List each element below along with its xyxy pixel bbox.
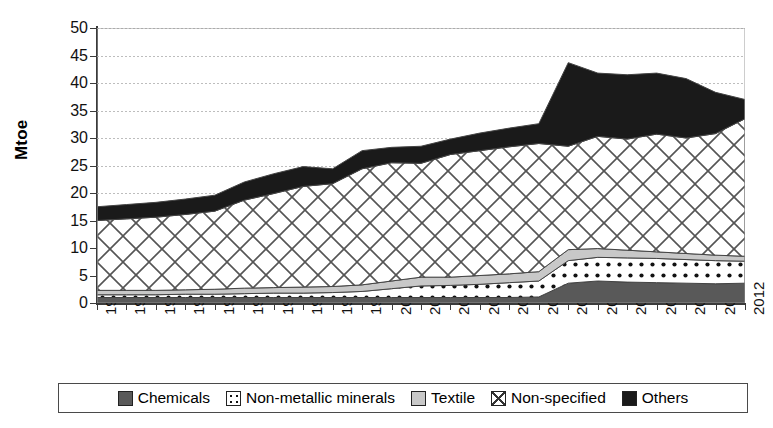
x-tick-mark xyxy=(362,303,363,310)
y-tick-label: 50 xyxy=(54,20,88,36)
chart-legend: ChemicalsNon-metallic mineralsTextileNon… xyxy=(58,383,748,413)
x-tick-mark xyxy=(97,303,98,310)
x-tick-mark xyxy=(185,303,186,310)
x-tick-mark xyxy=(303,303,304,310)
chart-container: Mtoe 50454035302520151050 19901991199219… xyxy=(0,0,773,428)
legend-label: Textile xyxy=(431,390,475,406)
y-tick-label: 40 xyxy=(54,75,88,91)
plot-area xyxy=(97,28,745,303)
legend-item-non-specified[interactable]: Non-specified xyxy=(491,390,606,406)
x-tick-mark xyxy=(480,303,481,310)
x-tick-mark xyxy=(244,303,245,310)
x-tick-mark xyxy=(657,303,658,310)
x-tick-mark xyxy=(509,303,510,310)
x-tick-mark xyxy=(215,303,216,310)
x-tick-mark xyxy=(450,303,451,310)
legend-label: Non-specified xyxy=(511,390,606,406)
x-tick-mark xyxy=(745,303,746,310)
x-tick-mark xyxy=(598,303,599,310)
y-tick-label: 20 xyxy=(54,185,88,201)
y-tick-label: 25 xyxy=(54,158,88,174)
y-tick-label: 15 xyxy=(54,213,88,229)
x-tick-mark xyxy=(627,303,628,310)
legend-label: Chemicals xyxy=(138,390,210,406)
y-tick-label: 35 xyxy=(54,103,88,119)
non-metallic-minerals-swatch xyxy=(226,391,241,406)
x-tick-mark xyxy=(126,303,127,310)
y-tick-label: 10 xyxy=(54,240,88,256)
legend-label: Non-metallic minerals xyxy=(246,390,395,406)
legend-item-textile[interactable]: Textile xyxy=(411,390,475,406)
others-swatch xyxy=(622,391,637,406)
legend-item-others[interactable]: Others xyxy=(622,390,689,406)
x-tick-label: 2012 xyxy=(751,282,766,315)
x-tick-mark xyxy=(392,303,393,310)
y-tick-label: 0 xyxy=(54,295,88,311)
x-tick-mark xyxy=(568,303,569,310)
x-tick-mark xyxy=(274,303,275,310)
y-tick-label: 5 xyxy=(54,268,88,284)
y-tick-label: 45 xyxy=(54,48,88,64)
x-tick-mark xyxy=(716,303,717,310)
legend-label: Others xyxy=(642,390,689,406)
non-specified-swatch xyxy=(491,391,506,406)
x-tick-mark xyxy=(333,303,334,310)
chemicals-swatch xyxy=(118,391,133,406)
y-axis-title: Mtoe xyxy=(12,120,32,160)
textile-swatch xyxy=(411,391,426,406)
legend-item-chemicals[interactable]: Chemicals xyxy=(118,390,210,406)
stacked-area-series xyxy=(97,28,745,303)
x-tick-mark xyxy=(156,303,157,310)
x-tick-mark xyxy=(421,303,422,310)
y-tick-label: 30 xyxy=(54,130,88,146)
x-tick-mark xyxy=(539,303,540,310)
x-tick-mark xyxy=(686,303,687,310)
legend-item-non-metallic-minerals[interactable]: Non-metallic minerals xyxy=(226,390,395,406)
